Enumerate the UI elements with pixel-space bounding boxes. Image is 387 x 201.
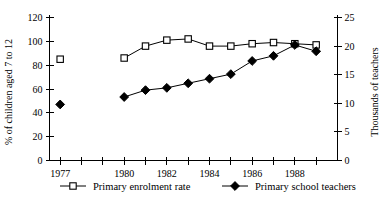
axis-lines: [50, 15, 338, 161]
chart-figure: % of children aged 7 to 12 Thousands of …: [0, 0, 387, 201]
data-point-filled-diamond: [141, 86, 150, 95]
left-tick-label: 0: [38, 155, 43, 166]
legend-marker-open-square: [70, 183, 76, 189]
dual-axis-line-chart: % of children aged 7 to 12 Thousands of …: [0, 0, 387, 201]
data-point-open-square: [206, 43, 212, 49]
data-point-filled-diamond: [248, 57, 257, 66]
right-axis-title: Thousands of teachers: [369, 47, 380, 137]
data-point-filled-diamond: [162, 83, 171, 92]
data-point-filled-diamond: [184, 79, 193, 88]
data-point-filled-diamond: [226, 70, 235, 79]
right-tick-label: 0: [345, 155, 350, 166]
data-point-filled-diamond: [269, 51, 278, 60]
right-tick-label: 5: [345, 126, 350, 137]
data-point-filled-diamond: [56, 100, 65, 109]
left-tick-label: 60: [33, 84, 43, 95]
series-2: [56, 41, 321, 109]
left-axis-title: % of children aged 7 to 12: [3, 39, 14, 145]
left-tick-label: 80: [33, 60, 43, 71]
x-axis-ticks: 197719801982198419861988: [50, 157, 316, 179]
data-point-open-square: [57, 56, 63, 62]
x-tick-label: 1986: [242, 168, 262, 179]
series-line: [124, 45, 316, 97]
data-point-open-square: [185, 36, 191, 42]
data-point-filled-diamond: [120, 93, 129, 102]
left-tick-label: 100: [28, 36, 43, 47]
right-axis-ticks: 0510152025: [334, 12, 355, 166]
series-layer: [56, 36, 321, 109]
legend-entry-1: Primary enrolment rate: [60, 181, 191, 192]
series-1: [57, 36, 319, 63]
chart-legend: Primary enrolment ratePrimary school tea…: [60, 181, 356, 192]
data-point-open-square: [228, 43, 234, 49]
x-tick-label: 1977: [50, 168, 70, 179]
axis-titles: % of children aged 7 to 12 Thousands of …: [3, 39, 380, 145]
right-tick-label: 20: [345, 41, 355, 52]
data-point-open-square: [142, 43, 148, 49]
data-point-open-square: [270, 39, 276, 45]
x-tick-label: 1982: [157, 168, 177, 179]
legend-entry-2: Primary school teachers: [222, 181, 356, 192]
x-tick-label: 1984: [200, 168, 220, 179]
legend-label: Primary school teachers: [255, 181, 356, 192]
right-tick-label: 10: [345, 98, 355, 109]
data-point-open-square: [164, 37, 170, 43]
x-tick-label: 1988: [285, 168, 305, 179]
left-tick-label: 20: [33, 131, 43, 142]
legend-marker-filled-diamond: [231, 182, 240, 191]
left-tick-label: 40: [33, 107, 43, 118]
data-point-open-square: [249, 41, 255, 47]
data-point-filled-diamond: [205, 74, 214, 83]
data-point-open-square: [121, 55, 127, 61]
right-tick-label: 15: [345, 69, 355, 80]
x-tick-label: 1980: [114, 168, 134, 179]
legend-label: Primary enrolment rate: [93, 181, 191, 192]
right-tick-label: 25: [345, 12, 355, 23]
left-tick-label: 120: [28, 12, 43, 23]
